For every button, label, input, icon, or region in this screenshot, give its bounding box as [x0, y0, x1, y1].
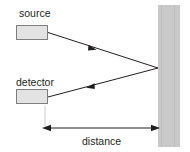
detector-label: detector [16, 76, 54, 88]
diagram-canvas: source detector distance [0, 0, 190, 152]
detector-box [17, 90, 48, 104]
distance-label: distance [82, 135, 121, 147]
optics-distance-diagram: source detector distance [0, 0, 190, 152]
source-box [17, 26, 48, 40]
source-label: source [19, 7, 51, 19]
ray-source-to-wall [48, 33, 158, 69]
distance-arrowhead-left [42, 125, 51, 131]
ray-wall-to-detector [48, 68, 158, 97]
